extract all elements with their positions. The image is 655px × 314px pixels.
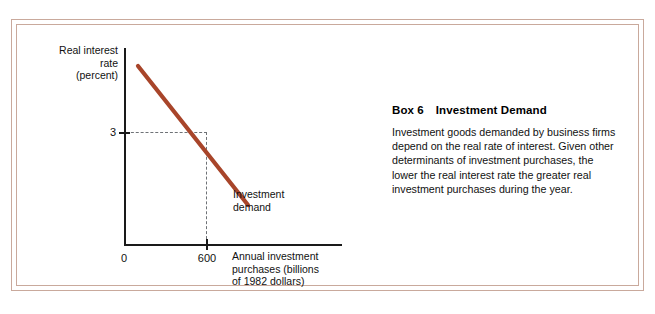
investment-demand-curve-label: Investment demand <box>233 188 323 213</box>
box-number-label: Box 6 <box>392 104 424 116</box>
figure-root: Real interest rate (percent) 3 600 0 Inv… <box>0 0 655 314</box>
x-axis-label: Annual investment purchases (billions of… <box>232 250 360 288</box>
x-tick-label-0: 0 <box>112 252 136 264</box>
box-body-text: Investment goods demanded by business fi… <box>392 125 620 196</box>
y-tick-mark-3 <box>119 132 130 134</box>
y-tick-label-3: 3 <box>100 126 116 138</box>
box-title: Investment Demand <box>436 104 547 116</box>
demand-curve-svg <box>20 28 360 282</box>
box-text-panel: Box 6Investment Demand Investment goods … <box>392 104 620 196</box>
x-tick-mark-600 <box>206 239 208 250</box>
investment-demand-curve <box>138 66 248 205</box>
box-heading: Box 6Investment Demand <box>392 104 620 116</box>
x-tick-label-600: 600 <box>190 252 224 264</box>
investment-demand-chart: Real interest rate (percent) 3 600 0 Inv… <box>20 28 360 282</box>
